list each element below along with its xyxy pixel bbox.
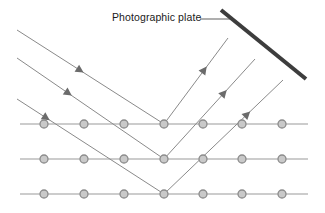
diagram-canvas: Photographic plate [0, 0, 325, 213]
atom-marker [40, 155, 48, 163]
atom-marker [120, 120, 128, 128]
atom-marker [278, 190, 286, 198]
atom-marker [120, 155, 128, 163]
bragg-diffraction-figure [0, 0, 325, 213]
atom-marker [238, 190, 246, 198]
atom-marker [160, 120, 168, 128]
ray-lines-group [17, 30, 283, 194]
photographic-plate-label: Photographic plate [112, 11, 201, 24]
incident-ray-1 [17, 30, 164, 124]
incident-ray-3 [17, 99, 164, 194]
incident-ray-2 [17, 58, 164, 159]
atom-marker [278, 120, 286, 128]
reflected-ray-1 [164, 38, 228, 124]
atom-marker [80, 120, 88, 128]
atom-marker [40, 120, 48, 128]
reflected-ray-2 [164, 59, 255, 159]
atom-marker [80, 190, 88, 198]
atom-marker [160, 190, 168, 198]
atom-marker [160, 155, 168, 163]
reflected-ray-1-arrowhead [199, 67, 207, 76]
photographic-plate [221, 10, 306, 79]
atom-marker [40, 190, 48, 198]
atom-marker [120, 190, 128, 198]
atom-marker [238, 155, 246, 163]
atom-marker [80, 155, 88, 163]
atom-marker [278, 155, 286, 163]
incident-ray-1-arrowhead [75, 65, 84, 73]
incident-ray-2-arrowhead [63, 88, 72, 96]
atom-marker [238, 120, 246, 128]
atom-marker [199, 120, 207, 128]
atom-marker [199, 155, 207, 163]
atom-marker [199, 190, 207, 198]
photographic-plate-group [200, 10, 306, 79]
incident-ray-3-arrowhead [41, 112, 50, 120]
